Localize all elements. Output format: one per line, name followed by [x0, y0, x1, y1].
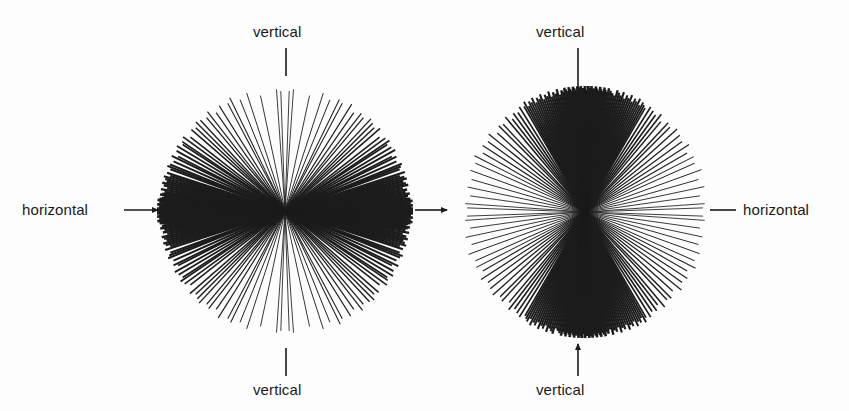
right-panel-rays — [465, 86, 704, 338]
left-panel-rays — [157, 89, 413, 332]
orientation-diagram-figure: vertical vertical horizontal vertical ve… — [0, 0, 849, 411]
rays-canvas — [0, 0, 849, 411]
